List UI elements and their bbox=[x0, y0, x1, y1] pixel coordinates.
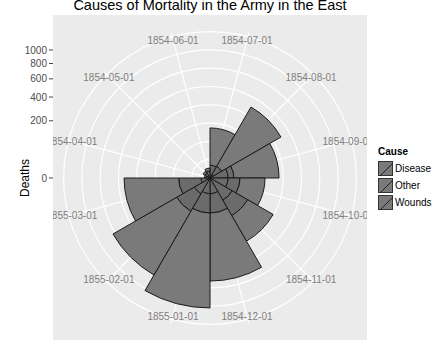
legend-item-wounds: Wounds bbox=[378, 194, 432, 211]
legend-key-wounds bbox=[378, 195, 393, 210]
month-label: 1854-10-01 bbox=[323, 210, 375, 221]
y-axis-label: Deaths bbox=[18, 159, 32, 197]
month-label: 1854-06-01 bbox=[147, 35, 199, 46]
month-label: 1854-07-01 bbox=[221, 35, 273, 46]
legend-key-disease bbox=[378, 161, 393, 176]
month-label: 1854-11-01 bbox=[286, 274, 337, 285]
month-label: 1855-03-01 bbox=[46, 210, 98, 221]
legend-title: Cause bbox=[378, 146, 432, 157]
legend: Cause Disease Other Wounds bbox=[378, 146, 432, 211]
legend-label: Other bbox=[395, 180, 420, 191]
legend-key-other bbox=[378, 178, 393, 193]
month-label: 1854-09-01 bbox=[323, 136, 375, 147]
legend-label: Wounds bbox=[395, 197, 432, 208]
month-label: 1854-05-01 bbox=[83, 72, 135, 83]
month-label: 1855-01-01 bbox=[147, 311, 199, 322]
y-tick-label: 1000 bbox=[25, 45, 48, 56]
legend-item-disease: Disease bbox=[378, 160, 432, 177]
y-tick-label: 200 bbox=[30, 115, 47, 126]
y-tick-label: 0 bbox=[41, 173, 47, 184]
month-label: 1854-08-01 bbox=[286, 72, 338, 83]
legend-item-other: Other bbox=[378, 177, 432, 194]
y-tick-label: 400 bbox=[30, 92, 47, 103]
month-label: 1855-02-01 bbox=[83, 274, 135, 285]
y-tick-label: 800 bbox=[30, 58, 47, 69]
y-tick-label: 600 bbox=[30, 73, 47, 84]
legend-label: Disease bbox=[395, 163, 431, 174]
month-label: 1854-04-01 bbox=[46, 136, 98, 147]
wedge-disease bbox=[205, 168, 210, 172]
month-label: 1854-12-01 bbox=[221, 311, 273, 322]
